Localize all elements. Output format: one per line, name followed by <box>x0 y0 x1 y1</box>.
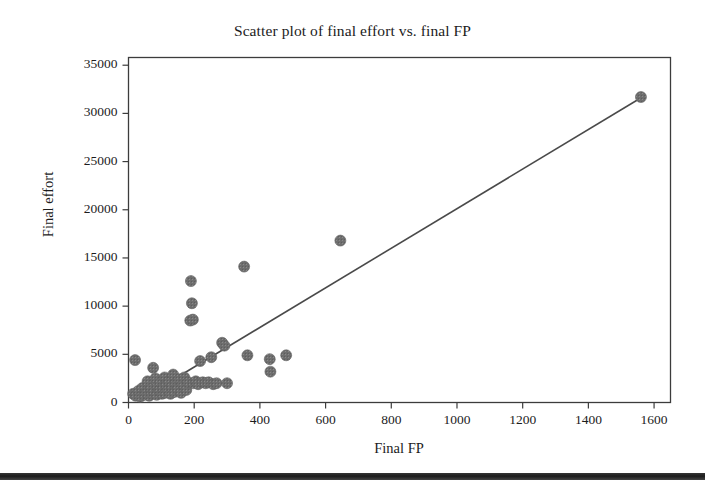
page-edge-artifact <box>0 473 705 480</box>
y-axis-label: Final effort <box>40 145 57 265</box>
x-axis-label: Final FP <box>128 440 670 457</box>
x-tick-label: 600 <box>296 412 356 428</box>
x-tick-label: 400 <box>230 412 290 428</box>
y-tick-label: 25000 <box>56 153 118 169</box>
scatter-point <box>335 235 346 246</box>
scatter-point <box>219 340 230 351</box>
scatter-point <box>130 355 141 366</box>
scatter-point <box>222 378 233 389</box>
scatter-point <box>242 350 253 361</box>
scatter-point <box>185 276 196 287</box>
scatter-point <box>239 261 250 272</box>
scatter-point <box>195 356 206 367</box>
scatter-point <box>187 314 198 325</box>
scatter-point <box>206 352 217 363</box>
scatter-point <box>281 350 292 361</box>
page-edge-artifact-lower <box>0 480 705 482</box>
x-tick-label: 1000 <box>427 412 487 428</box>
y-tick-label: 5000 <box>56 345 118 361</box>
scatter-point <box>186 298 197 309</box>
y-tick-label: 0 <box>56 394 118 410</box>
x-tick-label: 1400 <box>558 412 618 428</box>
x-tick-label: 1600 <box>624 412 684 428</box>
scatter-point <box>635 92 646 103</box>
plot-frame <box>129 58 671 403</box>
x-tick-label: 200 <box>164 412 224 428</box>
scatter-point <box>148 362 159 373</box>
y-tick-label: 20000 <box>56 201 118 217</box>
scatter-point <box>211 378 222 389</box>
x-tick-label: 800 <box>361 412 421 428</box>
scatter-point <box>264 354 275 365</box>
y-tick-label: 15000 <box>56 249 118 265</box>
y-tick-label: 30000 <box>56 104 118 120</box>
chart-figure: Scatter plot of final effort vs. final F… <box>0 0 705 490</box>
y-tick-label: 35000 <box>56 56 118 72</box>
x-tick-label: 0 <box>99 412 159 428</box>
scatter-point <box>265 366 276 377</box>
y-tick-label: 10000 <box>56 297 118 313</box>
x-tick-label: 1200 <box>493 412 553 428</box>
